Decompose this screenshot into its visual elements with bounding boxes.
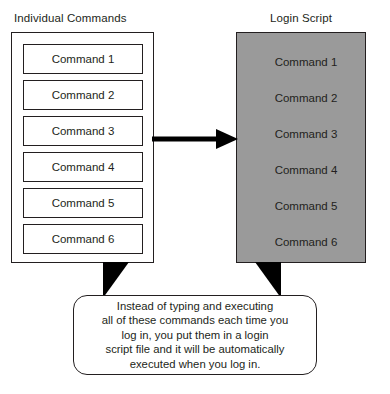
command-item: Command 2 [23, 80, 143, 110]
callout-pointer-left [103, 262, 129, 298]
callout-pointer-right [255, 262, 281, 298]
diagram-canvas: Individual Commands Login Script Command… [0, 0, 390, 394]
script-command-line: Command 1 [237, 56, 365, 68]
login-script-title: Login Script [236, 12, 366, 24]
script-command-line: Command 2 [237, 92, 365, 104]
callout-text: Instead of typing and executing all of t… [96, 299, 295, 372]
script-command-line: Command 5 [237, 200, 365, 212]
command-item: Command 5 [23, 188, 143, 218]
individual-commands-title: Individual Commands [14, 12, 126, 24]
script-command-line: Command 6 [237, 236, 365, 248]
command-item: Command 4 [23, 152, 143, 182]
flow-arrow-icon [150, 126, 240, 152]
script-command-line: Command 4 [237, 164, 365, 176]
command-item: Command 3 [23, 116, 143, 146]
callout-box: Instead of typing and executing all of t… [73, 295, 317, 375]
login-script-box: Command 1 Command 2 Command 3 Command 4 … [236, 32, 366, 263]
individual-commands-box: Command 1 Command 2 Command 3 Command 4 … [11, 32, 154, 263]
command-item: Command 1 [23, 44, 143, 74]
script-command-line: Command 3 [237, 128, 365, 140]
command-item: Command 6 [23, 224, 143, 254]
